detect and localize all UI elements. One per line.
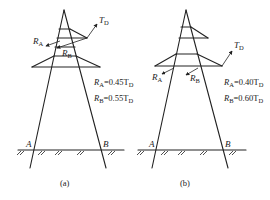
- tower-a-RA-arrow: [46, 41, 60, 46]
- tower-b-right-leg: [186, 10, 228, 168]
- panel-a-caption: (a): [60, 178, 70, 188]
- tower-b-TD-label: TD: [234, 40, 244, 51]
- tower-b-left-leg: [152, 10, 186, 168]
- tower-a-right-leg: [64, 10, 106, 168]
- tower-b-crossarm-left-brace: [155, 54, 176, 66]
- tower-a-crossarm-left-brace: [32, 56, 54, 67]
- figure: TD RA RB RA=0.45TD RB=0.55TD A B (a) TD …: [0, 0, 270, 200]
- tower-a-support-A: A: [25, 139, 32, 149]
- tower-a-eq-RA: RA=0.45TD: [93, 77, 134, 88]
- tower-a-RA-label: RA: [32, 36, 44, 47]
- tower-a-RB-label: RB: [61, 48, 73, 59]
- tower-a-support-B: B: [103, 139, 109, 149]
- tower-a-TD-label: TD: [99, 15, 109, 26]
- tower-a-eq-RB: RB=0.55TD: [93, 93, 133, 104]
- tower-a-left-leg: [30, 10, 64, 168]
- tower-b-support-A: A: [148, 139, 155, 149]
- tower-b-ground-hatch: [137, 151, 236, 155]
- tower-a-upper-arm: [70, 29, 87, 38]
- tower-b-RA-label: RA: [151, 72, 163, 83]
- tower-b-RB-label: RB: [189, 73, 201, 84]
- tower-b-support-B: B: [225, 139, 231, 149]
- tower-b-eq-RA: RA=0.40TD: [223, 77, 264, 88]
- tower-b-TD-arrow: [222, 51, 232, 66]
- tower-a-ground-hatch: [17, 151, 115, 155]
- tower-b-eq-RB: RB=0.60TD: [223, 93, 263, 104]
- tower-a-crossarm-right-brace: [76, 56, 100, 67]
- tower-a-TD-arrow: [87, 24, 97, 38]
- panel-b-caption: (b): [180, 178, 190, 188]
